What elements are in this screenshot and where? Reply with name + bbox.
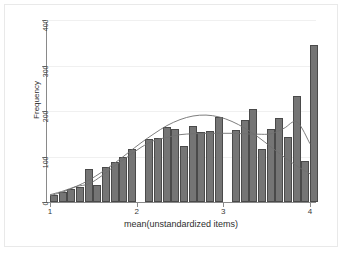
histogram-bar [249, 109, 257, 202]
histogram-bar [180, 146, 188, 202]
histogram-bar [85, 169, 93, 202]
histogram-bar [232, 130, 240, 202]
histogram-bar [267, 129, 275, 202]
x-tick-label-4: 4 [303, 208, 317, 216]
plot-area [46, 20, 316, 202]
histogram-bar [93, 185, 101, 202]
x-axis-label: mean(unstandardized items) [46, 220, 316, 229]
histogram-bar [67, 189, 75, 202]
histogram-bar [128, 149, 136, 202]
histogram-bar [171, 129, 179, 202]
histogram-figure: 0100200300400 1234 Frequency mean(unstan… [0, 0, 342, 257]
histogram-bar [275, 118, 283, 202]
histogram-bar [119, 157, 127, 202]
histogram-bar [301, 161, 309, 202]
histogram-bar [111, 162, 119, 202]
histogram-bar [189, 126, 197, 202]
x-tick-label-3: 3 [216, 208, 230, 216]
x-axis-line [46, 202, 316, 203]
histogram-bar [215, 117, 223, 202]
histogram-bar [50, 195, 58, 202]
histogram-bar [241, 120, 249, 202]
histogram-bar [154, 138, 162, 202]
x-tick-label-2: 2 [130, 208, 144, 216]
histogram-bar [145, 139, 153, 202]
y-axis-label: Frequency [33, 81, 41, 119]
histogram-bar [258, 149, 266, 202]
histogram-bar [310, 45, 318, 202]
histogram-bar [163, 127, 171, 202]
histogram-bar [284, 137, 292, 202]
y-tick-label-0: 0 [43, 202, 50, 206]
histogram-bar [293, 96, 301, 202]
histogram-bar [59, 192, 67, 202]
x-tick-label-1: 1 [43, 208, 57, 216]
histogram-bar [206, 131, 214, 202]
histogram-bar [76, 187, 84, 202]
histogram-bar [197, 132, 205, 202]
histogram-bar [102, 167, 110, 202]
